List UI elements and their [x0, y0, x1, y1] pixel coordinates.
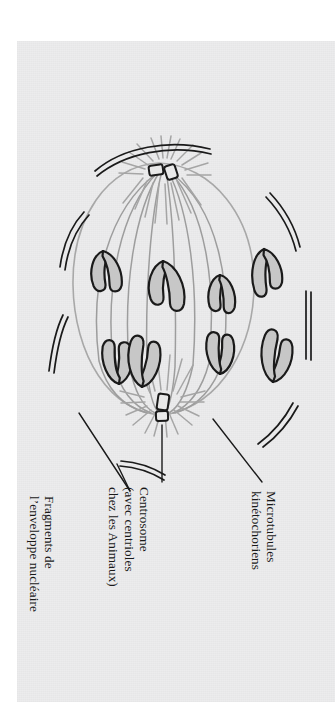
- chromosome: [250, 248, 284, 298]
- label-line: kinétochoriens: [248, 491, 263, 570]
- label-line: chez les Animaux): [106, 487, 121, 587]
- envelope-fragment: [306, 291, 311, 360]
- label-line: Centrosome: [137, 487, 152, 587]
- centriole-bottom-upper: [156, 393, 169, 410]
- label-fragments-enveloppe-nucleaire: Fragments de l’enveloppe nucléaire: [26, 496, 57, 612]
- label-line: Fragments de: [42, 496, 57, 612]
- chromosome: [147, 260, 186, 313]
- chromosome: [207, 274, 236, 314]
- label-line: Microtubules: [264, 491, 279, 570]
- leader-fragments-upper: [79, 413, 130, 491]
- chromosome: [256, 328, 296, 384]
- centriole-top-left: [148, 164, 163, 176]
- nuclear-envelope-fragments: [49, 145, 311, 480]
- aster-rays-top: [119, 136, 211, 224]
- envelope-fragment: [258, 403, 298, 447]
- chromosome: [125, 335, 162, 389]
- label-centrosome: Centrosome (avec centrioles chez les Ani…: [106, 487, 152, 587]
- label-line: l’enveloppe nucléaire: [26, 496, 41, 612]
- mitosis-figure: [17, 41, 335, 702]
- envelope-fragment: [266, 193, 300, 251]
- envelope-fragment: [120, 461, 165, 480]
- centriole-bottom-lower: [156, 411, 168, 421]
- chromosome: [205, 332, 234, 374]
- leader-lines: [79, 413, 262, 491]
- label-line: (avec centrioles: [121, 487, 136, 587]
- page-sheet: Microtubules kinétochoriens Centrosome (…: [17, 41, 335, 702]
- envelope-fragment: [49, 315, 68, 373]
- label-microtubules-kinetochoriens: Microtubules kinétochoriens: [248, 491, 279, 570]
- leader-microtubules: [213, 419, 262, 482]
- centrosome-bottom: [156, 393, 170, 421]
